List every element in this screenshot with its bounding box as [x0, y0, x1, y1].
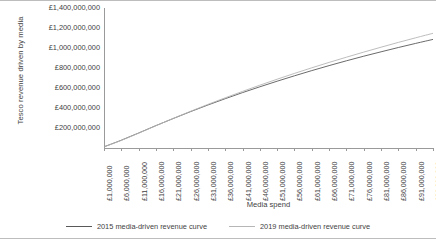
x-axis-tick-label: £36,000,000: [228, 162, 235, 201]
x-axis-tick-label: £56,000,000: [297, 162, 304, 201]
legend-label: 2015 media-driven revenue curve: [97, 222, 207, 231]
x-axis-tick-label: £86,000,000: [401, 162, 408, 201]
bottom-border-rule: [0, 238, 436, 239]
x-axis-tick-label: £26,000,000: [194, 162, 201, 201]
y-axis-tick-label: £1,200,000,000: [49, 24, 100, 32]
line-series-2019: [104, 33, 433, 147]
legend-line-swatch: [229, 226, 255, 227]
legend-line-swatch: [66, 226, 92, 227]
x-axis-tick-label: £1,000,000: [107, 165, 114, 201]
chart-container: Tesco revenue driven by media £1,400,000…: [0, 0, 436, 244]
plot-area: [104, 8, 433, 148]
x-axis-tick-label: £41,000,000: [246, 162, 253, 201]
series-lines: [104, 8, 433, 148]
x-axis-title: Media spend: [104, 200, 433, 209]
y-axis-tick-label: £800,000,000: [55, 64, 100, 72]
x-axis-tick-label: £91,000,000: [419, 162, 426, 201]
chart-legend: 2015 media-driven revenue curve2019 medi…: [0, 222, 436, 231]
x-axis-tick-label: £71,000,000: [349, 162, 356, 201]
x-axis-tick-label: £51,000,000: [280, 162, 287, 201]
x-axis-tick-label: £66,000,000: [332, 162, 339, 201]
y-axis-title: Tesco revenue driven by media: [16, 0, 25, 146]
x-axis-tick-label: £61,000,000: [315, 162, 322, 201]
y-axis-tick-label: £400,000,000: [55, 104, 100, 112]
legend-item[interactable]: 2015 media-driven revenue curve: [66, 222, 207, 231]
legend-label: 2019 media-driven revenue curve: [260, 222, 370, 231]
y-axis-tick-label: £1,000,000,000: [49, 44, 100, 52]
x-axis-tick-label: £76,000,000: [367, 162, 374, 201]
legend-item[interactable]: 2019 media-driven revenue curve: [229, 222, 370, 231]
x-axis-tick-mark: [433, 148, 434, 151]
x-axis-tick-label: £81,000,000: [384, 162, 391, 201]
line-series-2015: [104, 39, 433, 146]
y-axis-tick-labels: £1,400,000,000£1,200,000,000£1,000,000,0…: [26, 0, 100, 160]
x-axis-tick-label: £21,000,000: [176, 162, 183, 201]
y-axis-tick-label: £200,000,000: [55, 124, 100, 132]
x-axis-tick-label: £16,000,000: [159, 162, 166, 201]
x-axis-tick-label: £6,000,000: [124, 165, 131, 201]
x-axis-tick-label: £31,000,000: [211, 162, 218, 201]
x-axis-tick-label: £46,000,000: [263, 162, 270, 201]
x-axis-tick-label: £11,000,000: [142, 162, 149, 201]
y-axis-tick-label: £1,400,000,000: [49, 4, 100, 12]
x-axis-tick-labels: £1,000,000£6,000,000£11,000,000£16,000,0…: [104, 149, 433, 203]
y-axis-tick-label: £600,000,000: [55, 84, 100, 92]
